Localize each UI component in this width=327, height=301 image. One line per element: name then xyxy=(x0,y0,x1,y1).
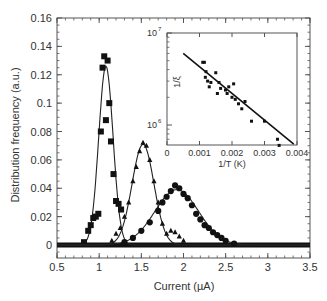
data-point xyxy=(147,219,153,225)
inset-x-axis-label: 1/T (K) xyxy=(218,159,245,169)
inset-data-point xyxy=(232,82,235,85)
data-point xyxy=(223,238,229,244)
x-tick-label: 1.5 xyxy=(134,261,149,273)
data-point xyxy=(172,229,177,234)
data-point xyxy=(111,171,117,177)
x-tick-label: 2.5 xyxy=(218,261,233,273)
inset-frame xyxy=(167,33,297,145)
data-point xyxy=(185,195,191,201)
inset-x-tick-label: 0.001 xyxy=(188,148,211,158)
x-tick-label: 2 xyxy=(180,261,186,273)
x-tick-label: 1 xyxy=(96,261,102,273)
data-point xyxy=(106,100,112,106)
inset-data-point xyxy=(205,70,208,73)
inset-data-point xyxy=(208,85,211,88)
inset-x-tick-label: 0.003 xyxy=(253,148,276,158)
data-point xyxy=(81,239,87,245)
data-point xyxy=(130,235,136,241)
data-point xyxy=(177,233,182,238)
data-point xyxy=(126,199,131,204)
inset-data-point xyxy=(224,89,227,92)
inset-data-point xyxy=(244,100,247,103)
inset-data-point xyxy=(206,80,209,83)
inset-data-point xyxy=(204,76,207,79)
data-point xyxy=(103,117,109,123)
chart-figure: 0.511.522.533.500.020.040.060.080.10.120… xyxy=(0,0,327,301)
data-point xyxy=(138,228,144,234)
inset-data-point xyxy=(219,87,222,90)
data-point xyxy=(118,207,124,213)
inset-x-tick-label: 0.002 xyxy=(221,148,244,158)
inset-data-point xyxy=(263,120,266,123)
data-point xyxy=(95,211,101,217)
data-point xyxy=(113,231,118,236)
data-point xyxy=(168,228,173,233)
data-point xyxy=(108,138,114,144)
inset-y-tick-exponent: 7 xyxy=(158,26,162,32)
inset-plot: 00.0010.0020.0030.004107106 xyxy=(147,26,308,158)
data-point xyxy=(176,185,182,191)
data-point xyxy=(85,228,91,234)
inset-data-point xyxy=(218,81,221,84)
y-tick-label: 0.04 xyxy=(31,182,52,194)
inset-data-point xyxy=(237,102,240,105)
inset-y-axis-label: 1/ξ xyxy=(172,76,182,88)
data-point xyxy=(160,221,165,226)
y-axis-label: Distribution frequency (a.u.) xyxy=(9,67,21,202)
data-point xyxy=(181,238,186,243)
data-point xyxy=(137,148,142,153)
data-point xyxy=(109,238,114,243)
inset-data-point xyxy=(278,144,281,147)
inset-y-tick-exponent: 6 xyxy=(158,118,162,124)
y-tick-label: 0.16 xyxy=(31,12,52,24)
data-point xyxy=(100,65,106,71)
inset-data-point xyxy=(209,81,212,84)
y-tick-label: 0.06 xyxy=(31,154,52,166)
y-tick-label: 0.02 xyxy=(31,211,52,223)
inset-data-point xyxy=(216,92,219,95)
data-point xyxy=(147,157,152,162)
x-tick-label: 3 xyxy=(265,261,271,273)
y-tick-label: 0.14 xyxy=(31,40,52,52)
inset-x-tick-label: 0.004 xyxy=(286,148,309,158)
data-point xyxy=(164,194,170,200)
inset-data-point xyxy=(226,92,229,95)
x-tick-label: 0.5 xyxy=(49,261,64,273)
data-point xyxy=(121,239,127,245)
inset-y-tick-label: 10 xyxy=(147,28,157,38)
data-point xyxy=(98,129,104,135)
data-point xyxy=(134,164,139,169)
x-tick-label: 3.5 xyxy=(302,261,317,273)
y-tick-label: 0.08 xyxy=(31,126,52,138)
inset-data-point xyxy=(240,107,243,110)
data-point xyxy=(189,202,195,208)
data-point xyxy=(197,216,203,222)
data-point xyxy=(193,211,199,217)
data-point xyxy=(105,58,111,64)
data-point xyxy=(116,201,122,207)
inset-data-point xyxy=(276,138,279,141)
inset-data-point xyxy=(234,98,237,101)
y-tick-label: 0 xyxy=(46,239,52,251)
inset-y-tick-label: 10 xyxy=(147,120,157,130)
inset-data-point xyxy=(214,71,217,74)
data-point xyxy=(231,240,237,246)
inset-data-point xyxy=(203,61,206,64)
inset-data-point xyxy=(250,120,253,123)
y-tick-label: 0.1 xyxy=(37,97,52,109)
data-point xyxy=(140,140,145,145)
data-point xyxy=(155,208,161,214)
data-point xyxy=(130,178,135,183)
inset-x-tick-label: 0 xyxy=(164,148,169,158)
x-axis-label: Current (µA) xyxy=(154,280,215,292)
inset-data-point xyxy=(227,85,230,88)
inset-data-point xyxy=(231,96,234,99)
data-point xyxy=(88,222,94,228)
data-point xyxy=(159,199,165,205)
y-tick-label: 0.12 xyxy=(31,69,52,81)
data-point xyxy=(168,188,174,194)
data-point xyxy=(151,178,156,183)
